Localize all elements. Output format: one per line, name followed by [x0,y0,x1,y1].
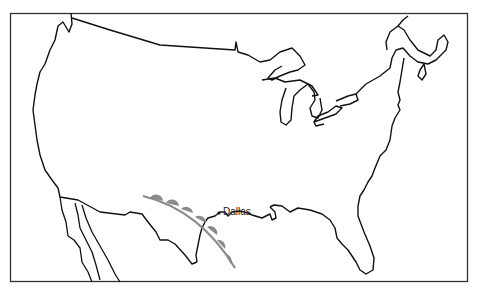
front-line [143,196,235,268]
warm-front [143,195,235,268]
map-frame [11,14,468,282]
us-outline [33,13,448,274]
us-map [0,0,481,297]
mexico-outline [60,197,120,282]
front-semicircles [150,195,232,264]
city-label-dallas: Dallas [223,206,251,217]
dallas-marker [217,211,220,214]
